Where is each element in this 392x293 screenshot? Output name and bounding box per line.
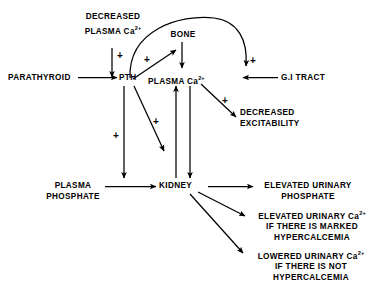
node-plasma-ca: PLASMA Ca2+ [148, 73, 205, 87]
node-elevated-urinary-ca-line2: IF THERE IS MARKED [249, 222, 375, 233]
node-decreased-excitability-line1: DECREASED [240, 108, 300, 119]
node-elevated-urinary-ca-line3: HYPERCALCEMIA [249, 233, 375, 244]
diagram-canvas: DECREASED PLASMA Ca2+ PARATHYROID PTH BO… [0, 0, 392, 293]
edge-kidney-to-elevated-urinary-ca [198, 192, 245, 216]
node-lowered-urinary-ca-line2: IF THERE IS NOT [247, 262, 375, 273]
node-lowered-urinary-ca-line3: HYPERCALCEMIA [247, 273, 375, 284]
sign-plus-pth-to-bone: + [144, 55, 150, 65]
sign-plus-pth-diagonal-kidney: + [153, 117, 159, 127]
sign-plus-arc-to-gi-tract: + [250, 56, 256, 66]
sign-plus-plasma-ca-to-excitability: + [222, 96, 228, 106]
node-plasma-phosphate-line1: PLASMA [41, 181, 105, 192]
node-kidney: KIDNEY [159, 181, 192, 192]
superscript-2plus: 2+ [135, 25, 142, 31]
node-plasma-phosphate: PLASMA PHOSPHATE [41, 181, 105, 202]
node-pth: PTH [119, 73, 136, 84]
node-decreased-plasma-ca: DECREASED PLASMA Ca2+ [64, 12, 162, 37]
node-bone: BONE [162, 30, 204, 41]
node-lowered-urinary-ca-line1: LOWERED URINARY Ca2+ [247, 248, 375, 262]
node-plasma-phosphate-line2: PHOSPHATE [41, 192, 105, 203]
edge-pth-to-kidney-diagonal [134, 86, 164, 151]
sign-plus-pth-down-kidney: + [113, 131, 119, 141]
node-decreased-plasma-ca-line2: PLASMA Ca2+ [64, 23, 162, 37]
node-gi-tract: G.I TRACT [281, 73, 325, 84]
node-elevated-urinary-phosphate-line1: ELEVATED URINARY [256, 181, 360, 192]
edge-plasma-ca-to-decreased-excitability [201, 84, 236, 117]
superscript-2plus: 2+ [198, 75, 205, 81]
node-elevated-urinary-ca: ELEVATED URINARY Ca2+ IF THERE IS MARKED… [249, 208, 375, 243]
edge-kidney-to-lowered-urinary-ca [190, 194, 243, 253]
sign-plus-decreased-ca-to-parathyroid: + [117, 51, 123, 61]
superscript-2plus: 2+ [358, 250, 365, 256]
superscript-2plus: 2+ [359, 210, 366, 216]
node-decreased-excitability-line2: EXCITABILITY [240, 119, 300, 130]
node-decreased-plasma-ca-line1: DECREASED [64, 12, 162, 23]
node-decreased-excitability: DECREASED EXCITABILITY [240, 108, 300, 129]
node-elevated-urinary-phosphate-line2: PHOSPHATE [256, 192, 360, 203]
node-lowered-urinary-ca: LOWERED URINARY Ca2+ IF THERE IS NOT HYP… [247, 248, 375, 283]
node-parathyroid: PARATHYROID [8, 73, 71, 84]
node-elevated-urinary-phosphate: ELEVATED URINARY PHOSPHATE [256, 181, 360, 202]
node-elevated-urinary-ca-line1: ELEVATED URINARY Ca2+ [249, 208, 375, 222]
